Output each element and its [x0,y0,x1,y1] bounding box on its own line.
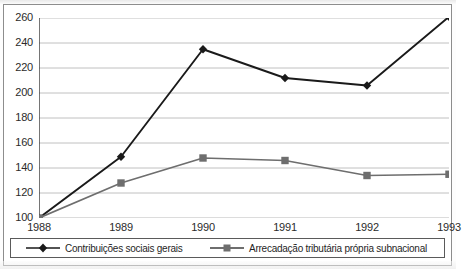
legend-swatch-square-icon [209,241,245,255]
data-point-marker [117,179,124,186]
x-axis-tick-label: 1988 [17,221,61,233]
y-axis-tick-label: 240 [7,36,33,48]
x-axis-tick-label: 1993 [427,221,466,233]
y-axis-tick-label: 200 [7,86,33,98]
x-axis-tick-label: 1989 [99,221,143,233]
scan-edge-bottom [0,261,456,269]
x-axis-tick-label: 1992 [345,221,389,233]
legend-item-contribuicoes-sociais-gerais: Contribuições sociais gerais [25,239,183,257]
data-point-marker [363,172,370,179]
data-point-marker [199,154,206,161]
data-point-marker [281,74,289,82]
y-axis-tick-label: 180 [7,111,33,123]
legend-swatch-diamond-icon [25,241,61,255]
y-axis-tick-label: 120 [7,186,33,198]
legend-item-arrecadacao-tributaria-propria-subnacional: Arrecadação tributária própria subnacion… [209,239,427,257]
legend-label-1: Contribuições sociais gerais [65,243,183,254]
data-point-marker [281,157,288,164]
y-axis-tick-label: 140 [7,161,33,173]
data-point-marker [39,214,43,218]
plot-area [39,18,449,218]
plot-frame: 100120140160180200220240260 [7,8,448,220]
x-axis-tick-label: 1990 [181,221,225,233]
chart-legend: Contribuições sociais gerais Arrecadação… [10,238,445,258]
series-line [39,158,449,218]
x-axis-tick-label: 1991 [263,221,307,233]
y-axis-tick-label: 220 [7,61,33,73]
line-chart-svg [39,18,449,218]
y-axis-tick-label: 160 [7,136,33,148]
y-axis-tick-label: 260 [7,11,33,23]
data-point-marker [445,171,449,178]
legend-label-2: Arrecadação tributária própria subnacion… [249,243,427,254]
gridlines [39,18,449,218]
